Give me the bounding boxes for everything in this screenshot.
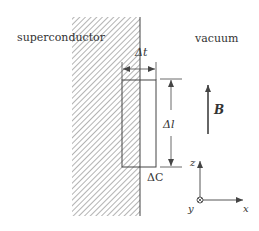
y-axis-label: y: [187, 203, 194, 214]
b-field-label: B: [213, 103, 224, 117]
vacuum-label: vacuum: [194, 32, 239, 45]
delta-c-label: ΔC: [147, 171, 163, 184]
diagram-svg: superconductor vacuum Δt Δl ΔC B z y x: [0, 0, 259, 231]
superconductor-label: superconductor: [17, 31, 106, 44]
delta-l-label: Δl: [162, 118, 175, 131]
diagram-canvas: superconductor vacuum Δt Δl ΔC B z y x: [0, 0, 259, 231]
superconductor-region: [72, 17, 140, 216]
x-axis-label: x: [243, 203, 249, 214]
delta-t-label: Δt: [134, 46, 148, 59]
coordinate-axes: [197, 161, 243, 203]
z-axis-label: z: [189, 157, 196, 168]
